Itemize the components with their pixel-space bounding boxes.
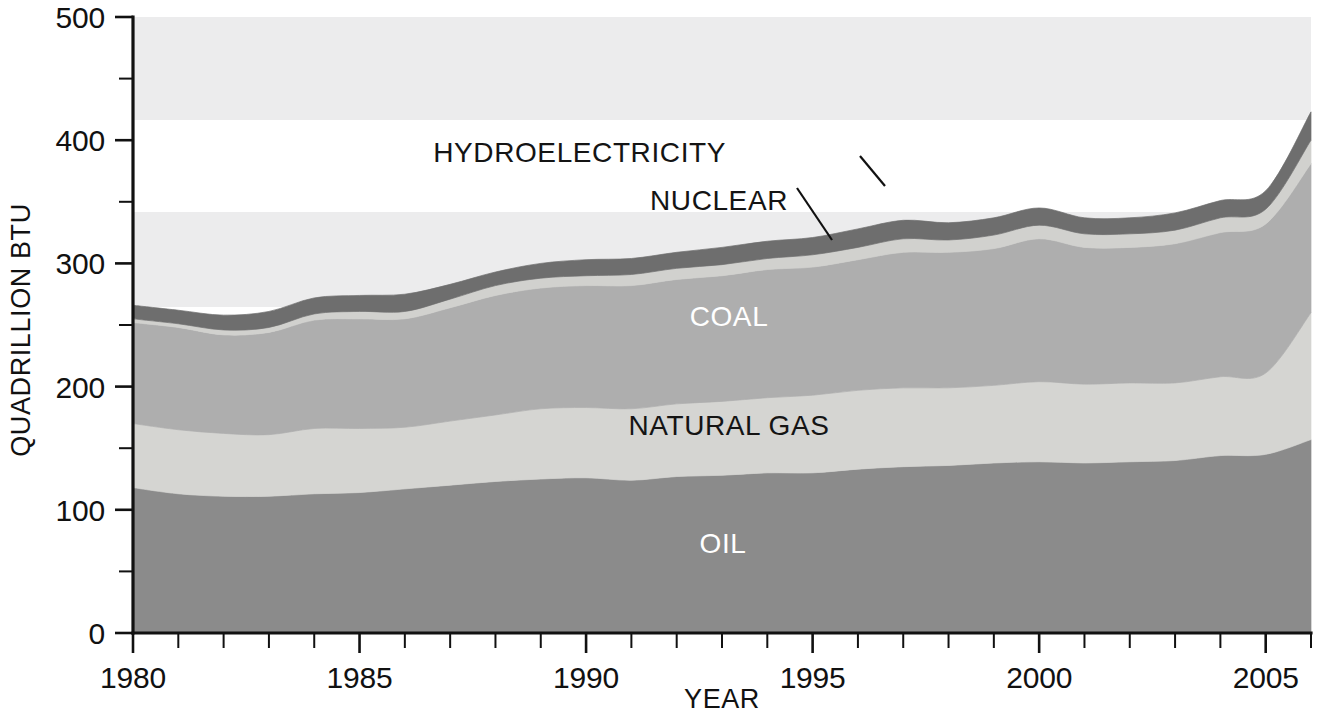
chart-canvas: 0100200300400500 19801985199019952000200… <box>0 0 1324 719</box>
x-tick-label: 1995 <box>780 661 846 694</box>
y-tick-label: 200 <box>56 371 105 404</box>
x-tick-label: 1985 <box>327 661 393 694</box>
stacked-area-chart: 0100200300400500 19801985199019952000200… <box>0 0 1324 719</box>
series-label-natural-gas: NATURAL GAS <box>628 410 829 441</box>
y-tick-label: 0 <box>89 617 106 650</box>
x-axis-title: YEAR <box>684 684 760 714</box>
series-label-nuclear: NUCLEAR <box>650 185 788 216</box>
series-label-oil: OIL <box>700 528 747 559</box>
y-tick-label: 400 <box>56 124 105 157</box>
y-tick-label-group: 0100200300400500 <box>56 1 105 650</box>
x-tick-label: 2000 <box>1006 661 1072 694</box>
y-tick-label: 100 <box>56 494 105 527</box>
x-tick-label: 1990 <box>553 661 619 694</box>
y-tick-label: 300 <box>56 247 105 280</box>
y-axis-title: QUADRILLION BTU <box>6 203 36 457</box>
x-tick-label: 2005 <box>1233 661 1299 694</box>
series-label-hydroelectricity: HYDROELECTRICITY <box>433 137 726 168</box>
y-tick-label: 500 <box>56 1 105 34</box>
scan-artifact-band-top <box>133 17 1311 120</box>
x-tick-label: 1980 <box>100 661 166 694</box>
series-label-coal: COAL <box>690 301 769 332</box>
hydroelectricity-leader-line <box>860 156 885 186</box>
